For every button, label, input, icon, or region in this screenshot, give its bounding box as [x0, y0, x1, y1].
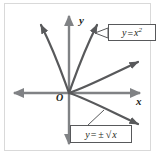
origin-label: O — [56, 93, 63, 103]
callout-radical-sign: ± — [97, 129, 105, 140]
y-axis-label: y — [79, 15, 84, 26]
callout-parabola-text: y=x2 — [122, 26, 142, 38]
callout-parabola-exponent: 2 — [139, 26, 143, 34]
curve-parabola-left — [41, 25, 69, 93]
callout-tail-parabola — [95, 28, 108, 38]
callout-radical-lhs: y — [85, 129, 89, 140]
callout-radical-radicand: x — [112, 129, 116, 140]
callout-radical-text: y=±√x — [85, 129, 117, 140]
curve-sqrt-lower — [69, 93, 138, 124]
callout-parabola-equals: = — [126, 28, 134, 39]
x-axis-label: x — [136, 96, 142, 107]
callout-tail-radical — [88, 110, 104, 125]
callout-radical: y=±√x — [70, 125, 132, 143]
callout-parabola: y=x2 — [108, 24, 156, 41]
math-figure: y x O y=x2 y=±√x — [0, 0, 158, 158]
